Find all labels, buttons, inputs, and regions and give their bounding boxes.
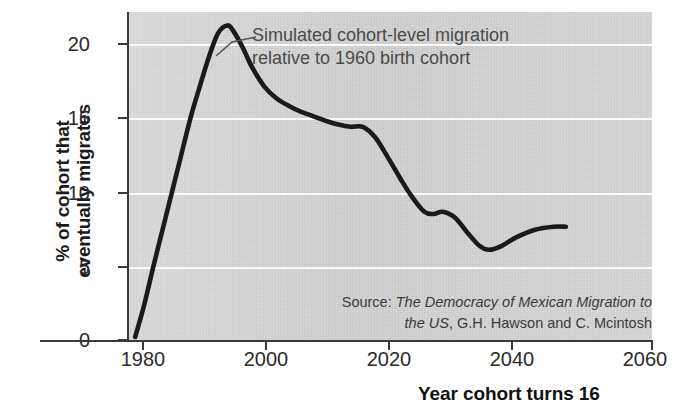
source-suffix: , G.H. Hawson and C. Mcintosh xyxy=(449,315,652,331)
curve-callout-text: Simulated cohort-level migration relativ… xyxy=(252,24,509,71)
y-axis-ticks: 20 15 10 5 0 xyxy=(42,0,90,418)
x-tick-label: 2020 xyxy=(367,348,412,371)
source-note: Source: The Democracy of Mexican Migrati… xyxy=(336,292,652,334)
x-axis-title: Year cohort turns 16 xyxy=(418,383,600,405)
x-tick-label: 2060 xyxy=(623,348,668,371)
x-tick-label: 2040 xyxy=(490,348,535,371)
y-tick-label: 20 xyxy=(50,33,90,56)
x-axis-line xyxy=(40,340,653,342)
y-tick-label: 15 xyxy=(50,107,90,130)
y-tick-label: 10 xyxy=(50,182,90,205)
y-tick-label: 5 xyxy=(50,256,90,279)
chart-figure: % of cohort that eventually migrates 20 … xyxy=(0,0,685,418)
x-tick-label: 1980 xyxy=(121,348,166,371)
x-tick-label: 2000 xyxy=(244,348,289,371)
source-prefix: Source: xyxy=(342,294,396,310)
